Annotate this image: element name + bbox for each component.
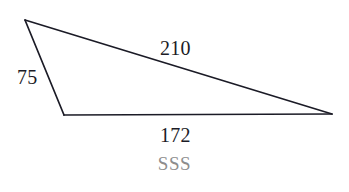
side-length-label-left: 75 [17, 67, 37, 87]
side-length-label-top: 210 [160, 38, 191, 58]
figure-canvas: 210 75 172 SSS [0, 0, 349, 192]
triangle-bottom-side [64, 114, 332, 115]
triangle-top-side [25, 20, 332, 114]
figure-caption: SSS [0, 154, 349, 174]
side-length-label-bottom: 172 [160, 125, 191, 145]
